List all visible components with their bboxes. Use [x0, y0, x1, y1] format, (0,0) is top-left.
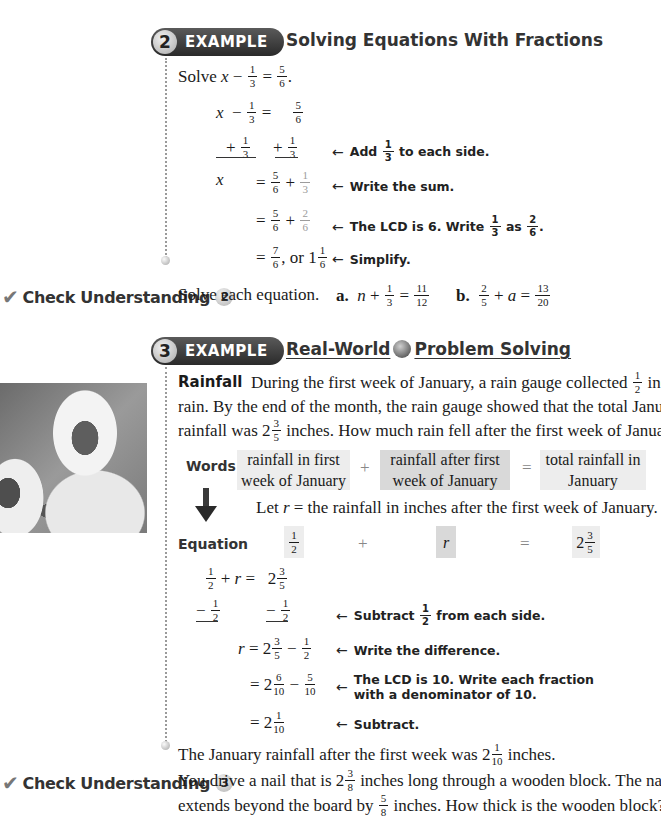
- step-note: ← The LCD is 10. Write each fraction wit…: [336, 672, 594, 702]
- example-3-badge: 3 EXAMPLE: [151, 337, 284, 365]
- words-box-3: total rainfall in January: [540, 450, 646, 490]
- globe-icon: [393, 340, 411, 358]
- example-2-rail: [165, 58, 167, 258]
- equation-box-3: 235: [572, 526, 600, 558]
- fraction: 56: [277, 64, 287, 89]
- check-2-part-a: a. n + 13 = 1112: [336, 283, 430, 308]
- step-line: = 2610 − 510: [250, 672, 316, 697]
- example-label: EXAMPLE: [185, 342, 268, 360]
- arrow-left-icon: ←: [332, 219, 344, 235]
- plus-op: +: [360, 458, 370, 478]
- arrow-left-icon: ←: [336, 642, 348, 658]
- step-line: = 76, or 116: [256, 245, 328, 270]
- underline: [216, 157, 256, 158]
- problem-paragraph: Rainfall During the first week of Januar…: [178, 370, 658, 443]
- underline: [266, 621, 288, 622]
- problem-statement: Solve x − 13 = 56 .: [178, 64, 292, 89]
- let-statement: Let r = the rainfall in inches after the…: [256, 498, 658, 518]
- equation-box-2: r: [436, 526, 456, 558]
- equation-box-1: 12: [284, 526, 304, 558]
- underline: [275, 157, 298, 158]
- op: =: [262, 67, 272, 87]
- step-line: = 56 + 13: [256, 170, 311, 195]
- check-icon: ✔: [2, 285, 18, 309]
- arrow-left-icon: ←: [336, 716, 348, 732]
- words-label: Words: [186, 458, 236, 474]
- step-line: x: [216, 170, 224, 190]
- arrow-left-icon: ←: [336, 608, 348, 624]
- step-line: x − 13 = 56: [216, 100, 304, 125]
- check-2-part-b: b. 25 + a = 1320: [456, 283, 551, 308]
- arrow-left-icon: ←: [332, 144, 344, 160]
- example-3-rail: [165, 367, 167, 742]
- down-arrow-icon: [195, 488, 217, 522]
- step-line: r = 235 − 12: [238, 636, 312, 661]
- arrow-left-icon: ←: [336, 680, 348, 695]
- check-2-prompt: Solve each equation.: [178, 285, 319, 305]
- step-line: = 2110: [250, 710, 285, 735]
- step-line: − 12: [196, 598, 221, 623]
- solve-word: Solve: [178, 67, 217, 87]
- step-note: ←The LCD is 6. Write 13 as 26.: [332, 215, 544, 238]
- equals-op: =: [520, 534, 530, 554]
- example-2-badge: 2 EXAMPLE: [151, 28, 284, 56]
- step-note: ←Write the sum.: [332, 178, 454, 194]
- photo-people-in-rain-ponchos: [0, 383, 147, 533]
- example-number: 3: [153, 339, 177, 363]
- check-3-problem: You drive a nail that is 238 inches long…: [178, 768, 658, 818]
- lead-word: Rainfall: [178, 371, 242, 394]
- op: −: [233, 67, 243, 87]
- step-note: ←Subtract.: [336, 716, 419, 732]
- rail-end-ball: [161, 741, 170, 750]
- arrow-left-icon: ←: [332, 251, 344, 267]
- check-icon: ✔: [2, 771, 18, 795]
- conclusion: The January rainfall after the first wee…: [178, 742, 555, 767]
- step-line: 12 + r = 235: [205, 566, 288, 591]
- step-note: ←Write the difference.: [336, 642, 500, 658]
- arrow-left-icon: ←: [332, 178, 344, 194]
- equation-label: Equation: [178, 536, 248, 552]
- rail-end-ball: [161, 256, 170, 265]
- fraction: 13: [248, 64, 258, 89]
- words-box-1: rainfall in first week of January: [237, 450, 350, 490]
- example-number: 2: [153, 30, 177, 54]
- words-box-2: rainfall after first week of January: [380, 450, 510, 490]
- plus-op: +: [358, 534, 368, 554]
- var: x: [221, 67, 229, 87]
- step-line: = 56 + 26: [256, 208, 311, 233]
- step-note: ← Add 13 to each side.: [332, 140, 489, 163]
- equals-op: =: [522, 458, 532, 478]
- step-note: ←Subtract 12 from each side.: [336, 604, 545, 627]
- step-note: ←Simplify.: [332, 251, 411, 267]
- step-line: − 12: [266, 598, 291, 623]
- example-2-title: Solving Equations With Fractions: [286, 30, 603, 50]
- underline: [196, 621, 218, 622]
- example-3-title: Real-WorldProblem Solving: [286, 339, 571, 359]
- example-label: EXAMPLE: [185, 33, 268, 51]
